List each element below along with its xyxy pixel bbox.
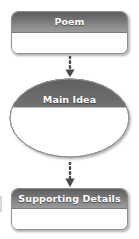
node-supporting-details-label: Supporting Details xyxy=(18,194,120,204)
diagram-canvas: Poem xyxy=(0,0,139,239)
node-supporting-details[interactable]: Supporting Details xyxy=(11,188,128,230)
node-supporting-details-body[interactable] xyxy=(12,209,127,229)
node-supporting-details-header: Supporting Details xyxy=(12,189,127,209)
node-main-idea-shape xyxy=(9,78,130,158)
node-poem-header: Poem xyxy=(12,12,127,33)
page-edge-artifact xyxy=(0,196,2,212)
node-poem-body[interactable] xyxy=(12,33,127,54)
node-main-idea-label: Main Idea xyxy=(9,95,130,105)
node-main-idea[interactable]: Main Idea xyxy=(9,78,130,158)
node-poem[interactable]: Poem xyxy=(11,11,128,54)
node-poem-label: Poem xyxy=(54,17,84,27)
connector-poem-to-main-idea xyxy=(62,56,78,78)
connector-main-idea-to-supporting-details xyxy=(62,162,78,188)
